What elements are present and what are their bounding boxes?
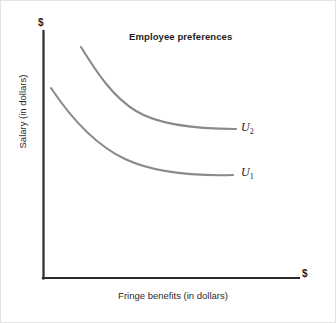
curve-label-u1-text: U (241, 165, 250, 179)
x-axis-label: Fringe benefits (in dollars) (43, 290, 303, 301)
curve-u2 (81, 47, 236, 129)
curve-label-u1: U1 (241, 165, 254, 181)
curve-u1 (51, 88, 233, 175)
curve-label-u2: U2 (241, 120, 254, 136)
curve-label-u2-subscript: 2 (250, 127, 254, 136)
y-axis-label: Salary (in dollars) (17, 47, 28, 177)
curve-label-u1-subscript: 1 (250, 172, 254, 181)
chart-figure: Employee preferences $ $ Salary (in doll… (0, 0, 336, 323)
x-axis-dollar-symbol: $ (302, 268, 308, 279)
chart-title: Employee preferences (129, 31, 232, 42)
y-axis-dollar-symbol: $ (38, 17, 44, 28)
chart-plot-area (1, 1, 336, 323)
curve-label-u2-text: U (241, 120, 250, 134)
